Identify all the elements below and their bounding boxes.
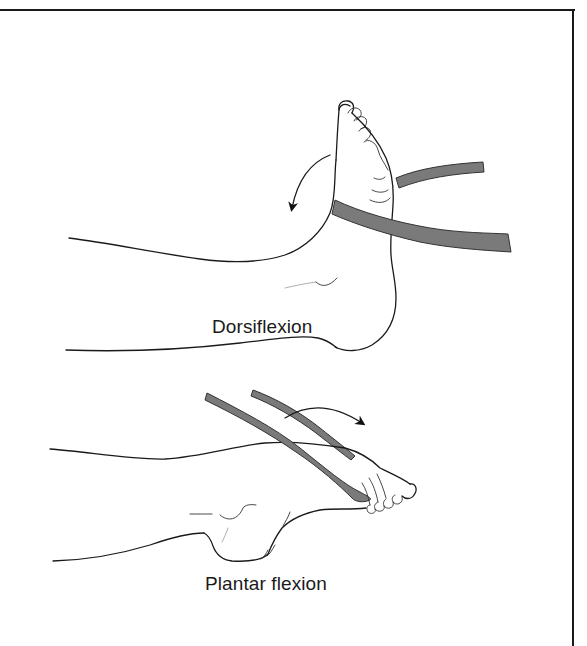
dorsi-ankle-bone (316, 278, 337, 285)
plantar-toe-1 (392, 495, 402, 504)
plantar-leg-top (50, 442, 410, 484)
dorsi-sole-crease-3 (374, 177, 385, 179)
plantar-heel-hatch (222, 528, 228, 542)
dorsi-motion-arrow-icon (292, 155, 330, 208)
dorsi-toe-1 (348, 108, 361, 120)
plantar-flexion-label: Plantar flexion (205, 573, 327, 595)
plantar-toe-3 (375, 502, 385, 511)
dorsi-sole-crease-1 (372, 190, 388, 192)
dorsi-ankle-line (285, 282, 316, 288)
dorsi-band-back (396, 162, 484, 188)
plantar-foot-sole (204, 508, 366, 561)
plantar-toe-big (402, 484, 416, 499)
dorsiflexion-label: Dorsiflexion (212, 316, 312, 338)
plantar-ankle-bone (220, 505, 256, 519)
dorsi-band-front (332, 200, 511, 252)
plantar-toe-line-1 (377, 474, 386, 498)
dorsi-leg-bottom (66, 337, 337, 351)
dorsi-toe-3 (359, 127, 371, 140)
dorsiflexion-figure (66, 101, 511, 351)
plantar-leg-bottom (53, 533, 204, 561)
plantar-flexion-figure (50, 390, 416, 561)
dorsi-sole-crease-2 (370, 198, 390, 202)
dorsi-toe-big (339, 101, 354, 113)
dorsi-leg-top (69, 160, 336, 262)
